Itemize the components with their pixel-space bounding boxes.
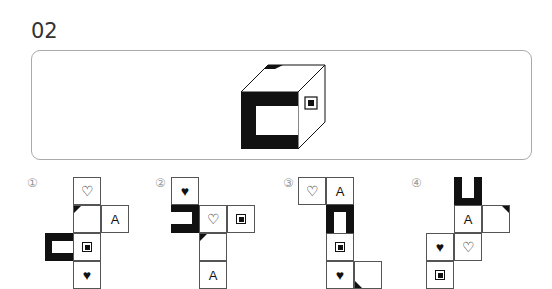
net-cell: ♥ (426, 233, 454, 261)
heart-outline-icon: ♡ (81, 184, 94, 198)
heart-outline-icon: ♡ (462, 240, 475, 254)
option-label-1[interactable]: ① (27, 176, 38, 190)
heart-outline-icon: ♡ (207, 212, 220, 226)
net-cell: A (199, 261, 227, 289)
corner-triangle-icon (502, 206, 509, 213)
net-cell (326, 233, 354, 261)
square-in-square-icon (335, 242, 345, 252)
net-cell: A (454, 205, 482, 233)
net-cell: A (101, 205, 129, 233)
net-cell (482, 205, 510, 233)
net-cell (199, 233, 227, 261)
net-cell: A (326, 177, 354, 205)
option-label-4[interactable]: ④ (411, 176, 422, 190)
net-cell: ♡ (199, 205, 227, 233)
square-in-square-icon (435, 270, 445, 280)
net-cell (171, 205, 199, 233)
net-cell: ♡ (73, 177, 101, 205)
net-cell: ♥ (73, 261, 101, 289)
net-cell: ♡ (298, 177, 326, 205)
option-label-2[interactable]: ② (155, 176, 166, 190)
net-cell (326, 205, 354, 233)
thick-frame-icon (171, 212, 192, 224)
net-cell (227, 205, 255, 233)
square-in-square-icon (236, 214, 246, 224)
thick-frame-icon (52, 241, 73, 253)
heart-filled-icon: ♥ (436, 240, 444, 254)
heart-outline-icon: ♡ (306, 184, 319, 198)
corner-triangle-icon (355, 281, 362, 288)
letter-a: A (464, 212, 473, 227)
square-in-square-icon (82, 242, 92, 252)
thick-frame-icon (334, 212, 346, 233)
thick-frame-icon (462, 177, 474, 198)
letter-a: A (209, 268, 218, 283)
heart-filled-icon: ♥ (83, 268, 91, 282)
corner-triangle-icon (200, 234, 207, 241)
net-cell (426, 261, 454, 289)
net-cell (73, 205, 101, 233)
letter-a: A (111, 212, 120, 227)
net-cell: ♡ (454, 233, 482, 261)
heart-filled-icon: ♥ (181, 184, 189, 198)
net-cell (73, 233, 101, 261)
letter-a: A (336, 184, 345, 199)
corner-triangle-icon (74, 206, 81, 213)
net-cell (454, 177, 482, 205)
net-cell (354, 261, 382, 289)
heart-filled-icon: ♥ (336, 268, 344, 282)
net-cell: ♥ (171, 177, 199, 205)
option-label-3[interactable]: ③ (283, 176, 294, 190)
net-cell: ♥ (326, 261, 354, 289)
net-cell (45, 233, 73, 261)
